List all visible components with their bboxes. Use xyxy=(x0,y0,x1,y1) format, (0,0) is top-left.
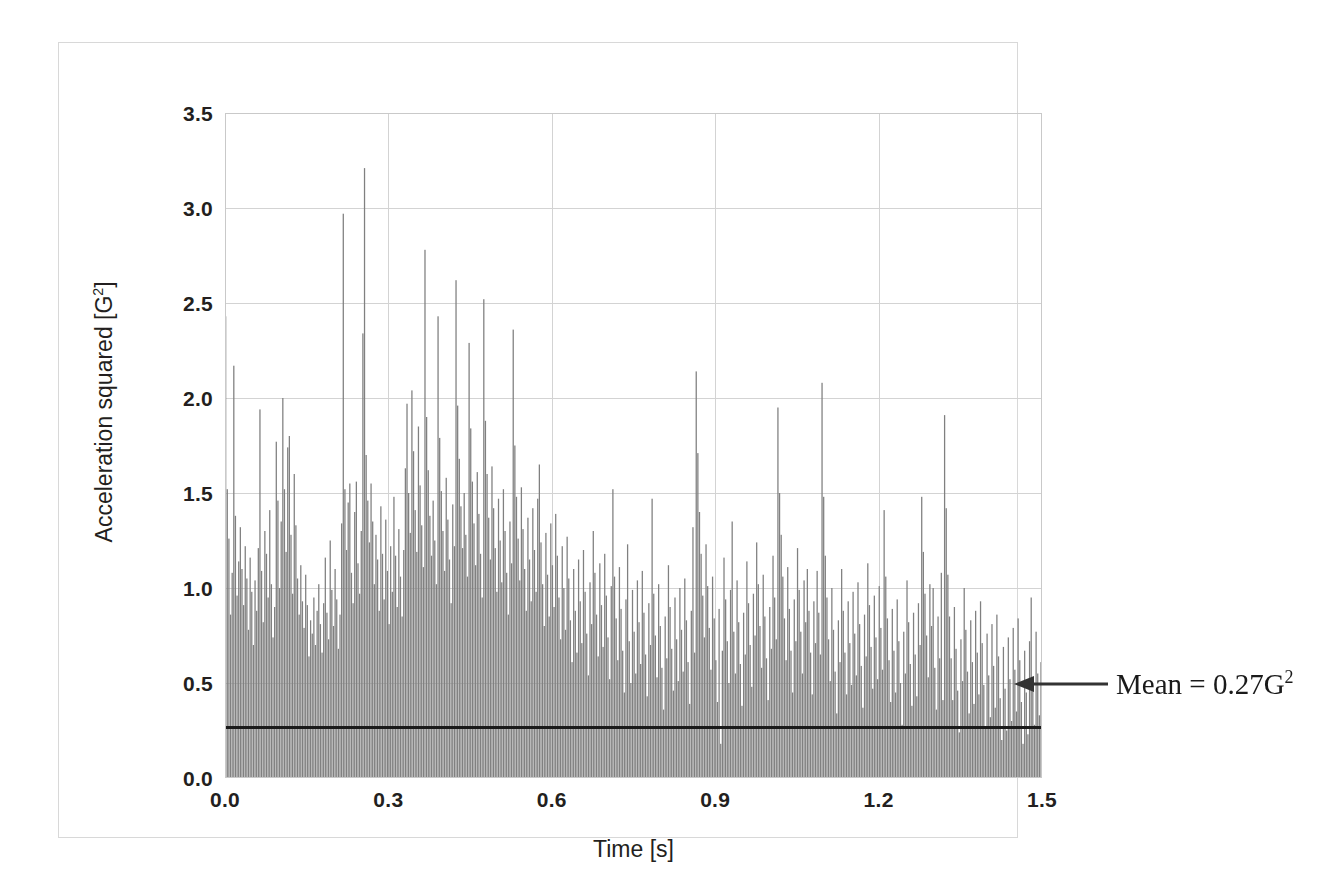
x-tick-label-1.2: 1.2 xyxy=(839,789,919,810)
x-tick-label-0.3: 0.3 xyxy=(348,789,428,810)
mean-reference-line xyxy=(225,726,1042,729)
mean-annotation: Mean = 0.27G2 xyxy=(1012,660,1294,708)
bar-series-canvas xyxy=(225,113,1042,778)
arrow-left-icon xyxy=(1012,671,1108,697)
x-tick-label-1.5: 1.5 xyxy=(1002,789,1082,810)
y-axis-title-prefix: Acceleration squared [G xyxy=(91,296,117,543)
x-tick-label-0.6: 0.6 xyxy=(512,789,592,810)
x-tick-label-0.0: 0.0 xyxy=(185,789,265,810)
y-tick-label-3.5: 3.5 xyxy=(153,103,213,124)
y-axis-tick-labels: 3.53.02.52.01.51.00.50.0 xyxy=(145,43,213,881)
y-tick-label-0.0: 0.0 xyxy=(153,768,213,789)
y-tick-label-0.5: 0.5 xyxy=(153,673,213,694)
y-tick-label-2.0: 2.0 xyxy=(153,388,213,409)
y-axis-title: Acceleration squared [G2] xyxy=(90,102,118,722)
figure-frame: 3.53.02.52.01.51.00.50.0 0.00.30.60.91.2… xyxy=(58,42,1018,838)
y-tick-label-1.5: 1.5 xyxy=(153,483,213,504)
y-axis-title-suffix: ] xyxy=(91,281,117,287)
mean-annotation-text: Mean = 0.27G xyxy=(1116,668,1285,700)
plot-area xyxy=(225,113,1042,778)
x-axis-title: Time [s] xyxy=(225,836,1042,863)
x-axis-tick-labels: 0.00.30.60.91.21.5 xyxy=(59,789,1328,823)
x-tick-label-0.9: 0.9 xyxy=(675,789,755,810)
y-tick-label-1.0: 1.0 xyxy=(153,578,213,599)
y-tick-label-3.0: 3.0 xyxy=(153,198,213,219)
mean-annotation-exponent: 2 xyxy=(1285,667,1294,687)
mean-annotation-label: Mean = 0.27G2 xyxy=(1116,667,1294,701)
y-tick-label-2.5: 2.5 xyxy=(153,293,213,314)
y-axis-title-exponent: 2 xyxy=(90,288,106,296)
